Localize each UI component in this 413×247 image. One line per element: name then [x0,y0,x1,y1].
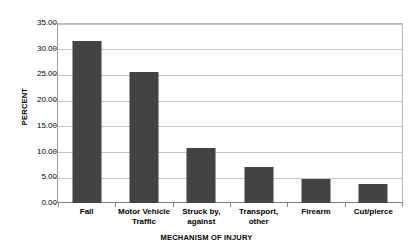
y-tick-label: 15.00 [9,122,57,130]
y-tick-label: 25.00 [9,70,57,78]
bar-slot [287,23,344,203]
x-tick-label: Cut/pierce [339,207,408,217]
x-tick-label-line: other [224,217,293,227]
y-tick-label: 0.00 [9,199,57,207]
bar-chart: PERCENT 0.005.0010.0015.0020.0025.0030.0… [0,0,413,247]
bar-slot [230,23,287,203]
bar-slot [345,23,402,203]
bars-layer [58,23,402,203]
y-tick-label: 20.00 [9,96,57,104]
y-axis-ticks: 0.005.0010.0015.0020.0025.0030.0035.00 [0,23,57,203]
bar[interactable] [187,148,216,203]
bar-slot [58,23,115,203]
bar[interactable] [244,167,273,203]
bar[interactable] [72,41,101,203]
bar-slot [173,23,230,203]
y-tick-label: 35.00 [9,19,57,27]
bar-slot [115,23,172,203]
bar[interactable] [129,72,158,203]
x-tick-label-line: Cut/pierce [339,207,408,217]
bar[interactable] [359,184,388,203]
y-tick-label: 10.00 [9,148,57,156]
y-tick-label: 5.00 [9,173,57,181]
y-tick-label: 30.00 [9,45,57,53]
bar[interactable] [301,179,330,203]
x-axis-title: MECHANISM OF INJURY [0,233,413,242]
